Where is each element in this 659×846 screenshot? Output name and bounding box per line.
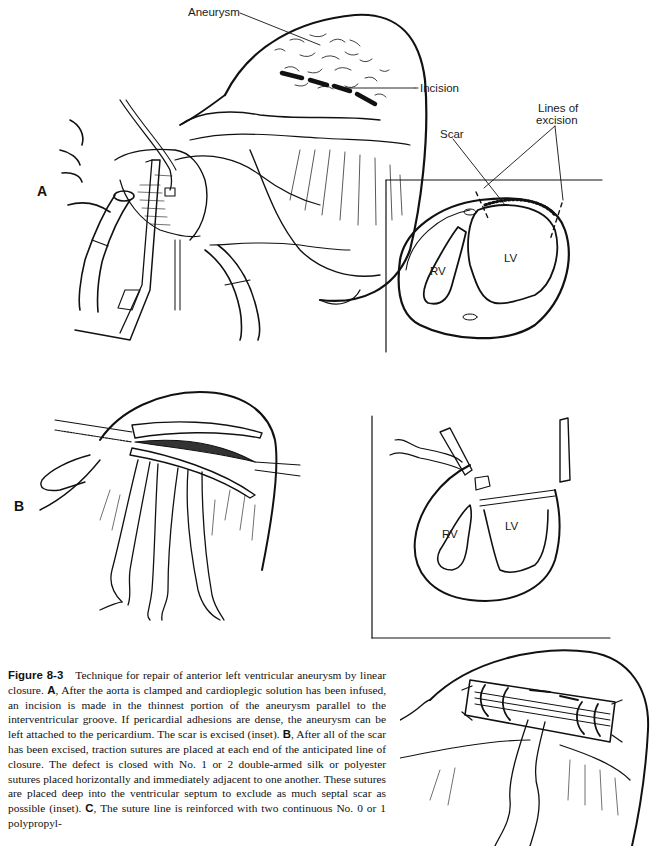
label-incision: Incision — [420, 82, 459, 95]
figure-caption: Figure 8-3Technique for repair of anteri… — [8, 668, 386, 831]
figure-number: Figure 8-3 — [8, 669, 63, 681]
label-lines-of-excision-2: excision — [536, 114, 578, 127]
label-lv-b: LV — [505, 520, 518, 533]
label-aneurysm: Aneurysm — [188, 6, 240, 19]
caption-panel-ref-b: B — [283, 728, 291, 740]
label-lv-a: LV — [504, 252, 517, 265]
panel-b-illustration — [0, 370, 659, 650]
panel-c — [400, 640, 659, 846]
panel-a-illustration — [0, 0, 659, 370]
label-scar: Scar — [440, 128, 464, 141]
caption-panel-ref-c: C — [85, 802, 93, 814]
panel-a: Aneurysm Incision Scar Lines of excision… — [0, 0, 659, 370]
label-rv-a: RV — [430, 265, 446, 278]
caption-panel-ref-a: A — [47, 684, 55, 696]
panel-letter-a: A — [37, 183, 47, 199]
panel-letter-b: B — [14, 498, 24, 514]
panel-b: RV LV B — [0, 370, 659, 650]
label-rv-b: RV — [442, 528, 458, 541]
panel-c-illustration — [400, 640, 659, 846]
